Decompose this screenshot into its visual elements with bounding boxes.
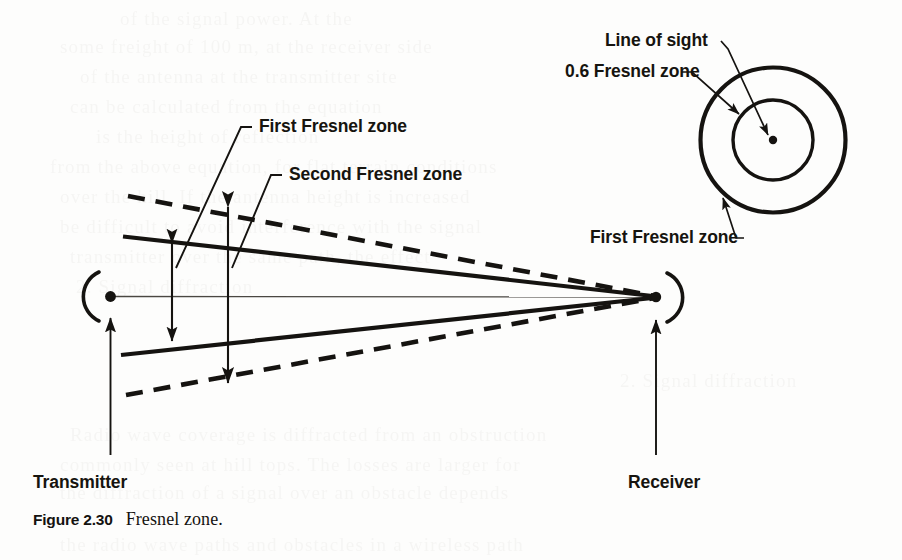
fresnel-zone-diagram <box>0 0 902 560</box>
transmitter-point <box>105 291 116 302</box>
figure-caption-number: Figure 2.30 <box>33 511 113 528</box>
line-of-sight-axis <box>110 297 657 298</box>
figure-caption: Figure 2.30Fresnel zone. <box>33 509 223 530</box>
label-transmitter: Transmitter <box>33 472 127 493</box>
transmitter-arc-icon <box>83 272 99 321</box>
receiver-point <box>651 292 661 302</box>
label-first-fresnel-zone-right: First Fresnel zone <box>590 227 738 248</box>
figure-page: of the signal power. At thesome freight … <box>0 0 902 560</box>
label-first-fresnel-zone-left: First Fresnel zone <box>259 116 407 137</box>
label-line-of-sight: Line of sight <box>605 30 708 51</box>
line-of-sight-center-point <box>769 136 777 144</box>
figure-caption-text: Fresnel zone. <box>126 509 223 529</box>
label-zone-06-fresnel: 0.6 Fresnel zone <box>565 61 700 82</box>
label-second-fresnel-zone: Second Fresnel zone <box>289 164 462 185</box>
receiver-arc-icon <box>667 273 683 322</box>
label-receiver: Receiver <box>628 472 700 493</box>
leader-line-of-sight <box>721 41 768 135</box>
